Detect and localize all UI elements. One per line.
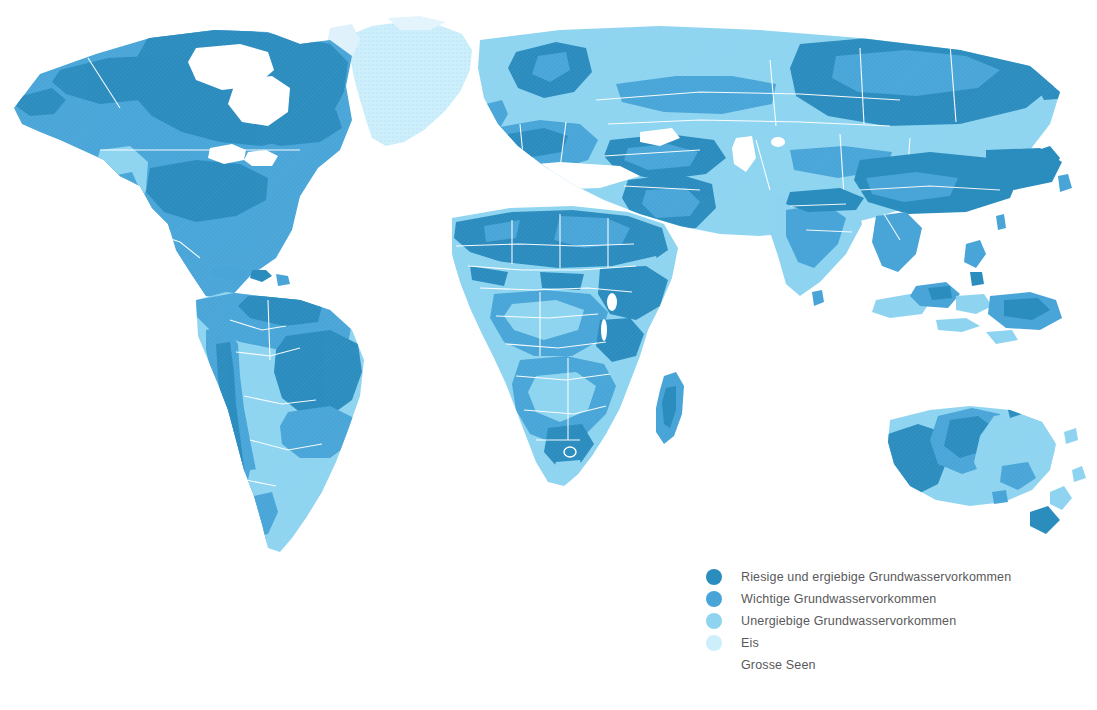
- legend-label-lakes: Grosse Seen: [741, 658, 816, 672]
- legend-item-unproductive[interactable]: Unergiebige Grundwasservorkommen: [706, 610, 1086, 632]
- world-map-figure: Riesige und ergiebige Grundwasservorkomm…: [0, 0, 1097, 710]
- legend-item-lakes[interactable]: Grosse Seen: [706, 654, 1086, 676]
- map-legend: Riesige und ergiebige Grundwasservorkomm…: [706, 566, 1086, 676]
- legend-label-unproductive: Unergiebige Grundwasservorkommen: [741, 614, 956, 628]
- legend-item-ice[interactable]: Eis: [706, 632, 1086, 654]
- legend-label-huge: Riesige und ergiebige Grundwasservorkomm…: [741, 570, 1011, 584]
- legend-item-important[interactable]: Wichtige Grundwasservorkommen: [706, 588, 1086, 610]
- legend-item-huge[interactable]: Riesige und ergiebige Grundwasservorkomm…: [706, 566, 1086, 588]
- legend-label-ice: Eis: [741, 636, 759, 650]
- legend-label-important: Wichtige Grundwasservorkommen: [741, 592, 936, 606]
- legend-swatch-ice: [706, 635, 722, 651]
- legend-swatch-important: [706, 591, 722, 607]
- legend-swatch-unproductive: [706, 613, 722, 629]
- legend-swatch-lakes: [706, 657, 722, 673]
- legend-swatch-huge: [706, 569, 722, 585]
